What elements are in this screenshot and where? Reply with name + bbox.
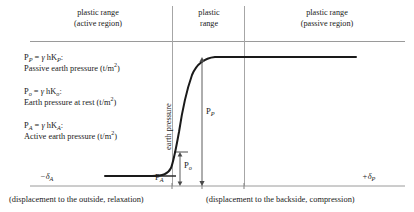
label-active-pressure: PA <box>155 172 164 182</box>
x-axis-right-endpoint-label: +δP <box>362 172 375 181</box>
label-at-rest-pressure: Po <box>184 160 192 170</box>
label-at-rest-pressure-sub: o <box>189 164 192 171</box>
caption-left: (displacement to the outside, relaxation… <box>9 195 144 204</box>
at-rest-pressure-arrow <box>178 152 183 186</box>
earth-pressure-diagram: plastic range (active region) plastic ra… <box>0 0 414 212</box>
x-axis-left-endpoint-sub: A <box>50 175 54 182</box>
x-axis-left-endpoint-symbol: −δ <box>40 172 50 181</box>
x-axis-left-endpoint-label: −δA <box>40 172 53 181</box>
label-active-pressure-sub: A <box>160 176 164 183</box>
passive-pressure-arrow <box>199 57 204 186</box>
label-passive-pressure-sub: P <box>211 110 215 117</box>
caption-right: (displacement to the backside, compressi… <box>206 195 355 204</box>
earth-pressure-curve <box>105 57 356 176</box>
x-axis-right-endpoint-sub: P <box>372 175 376 182</box>
x-axis-right-endpoint-symbol: +δ <box>362 172 372 181</box>
label-passive-pressure: PP <box>206 106 215 116</box>
